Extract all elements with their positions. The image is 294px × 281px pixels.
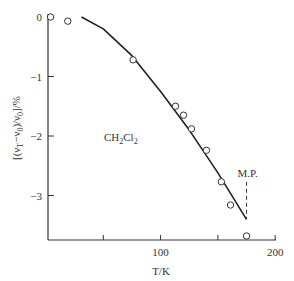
data-point <box>65 18 71 24</box>
y-tick-label: −2 <box>30 130 42 142</box>
fit-curve <box>82 17 247 219</box>
melting-point-line: M.P. <box>237 167 257 219</box>
data-point <box>172 103 178 109</box>
x-ticks: 100200 <box>103 235 284 258</box>
data-point <box>243 233 249 239</box>
y-tick-label: −1 <box>30 71 42 83</box>
data-point <box>227 202 233 208</box>
data-point <box>130 57 136 63</box>
compound-label: CH2Cl2 <box>104 131 138 146</box>
x-tick-label: 100 <box>152 246 169 258</box>
data-point <box>203 147 209 153</box>
data-point <box>218 179 224 185</box>
data-point <box>47 14 53 20</box>
mp-label: M.P. <box>237 167 257 179</box>
y-axis-title: [(νT−ν0)/ν0]/% <box>10 96 25 160</box>
data-point <box>188 126 194 132</box>
x-axis-title: T/K <box>152 265 170 277</box>
y-tick-label: 0 <box>37 11 43 23</box>
y-ticks: 0−1−2−3 <box>30 11 54 202</box>
data-points <box>47 14 249 239</box>
y-tick-label: −3 <box>30 190 42 202</box>
fit-path <box>82 17 247 219</box>
x-tick-label: 200 <box>267 246 284 258</box>
data-point <box>180 112 186 118</box>
chart: 100200 0−1−2−3 M.P. CH2Cl2 T/K [(νT−ν0)/… <box>0 0 294 281</box>
